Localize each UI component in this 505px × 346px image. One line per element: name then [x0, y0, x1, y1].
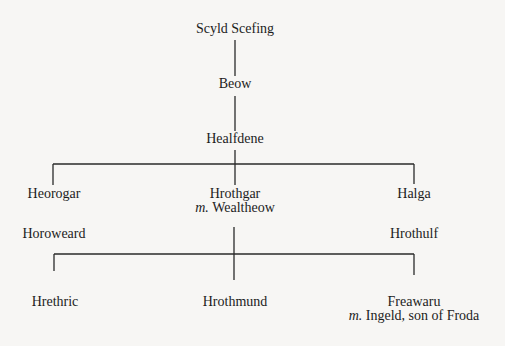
node-name: Halga	[397, 186, 430, 201]
node-heorogar: Heorogar	[28, 187, 81, 201]
spouse-name: Ingeld, son of Froda	[366, 308, 480, 323]
node-horoweard: Horoweard	[23, 227, 86, 241]
node-hrothulf: Hrothulf	[390, 227, 438, 241]
node-hrethric: Hrethric	[32, 295, 79, 309]
node-beow: Beow	[219, 77, 252, 91]
node-freawaru: Freawaru m. Ingeld, son of Froda	[349, 295, 480, 323]
node-name: Beow	[219, 76, 252, 91]
married-prefix: m.	[349, 308, 363, 323]
node-hrothmund: Hrothmund	[203, 295, 268, 309]
spouse-name: Wealtheow	[212, 200, 275, 215]
node-name: Horoweard	[23, 226, 86, 241]
node-halga: Halga	[397, 187, 430, 201]
node-name: Scyld Scefing	[196, 21, 274, 36]
node-name: Healfdene	[206, 131, 264, 146]
spouse-line: m. Ingeld, son of Froda	[349, 309, 480, 323]
spouse-line: m. Wealtheow	[195, 201, 275, 215]
node-name: Heorogar	[28, 186, 81, 201]
node-name: Hrothmund	[203, 294, 268, 309]
node-name: Hrethric	[32, 294, 79, 309]
node-name: Hrothulf	[390, 226, 438, 241]
node-healfdene: Healfdene	[206, 132, 264, 146]
node-name: Hrothgar	[210, 186, 261, 201]
node-scyld-scefing: Scyld Scefing	[196, 22, 274, 36]
node-name: Freawaru	[388, 294, 441, 309]
node-hrothgar: Hrothgar m. Wealtheow	[195, 187, 275, 215]
married-prefix: m.	[195, 200, 209, 215]
